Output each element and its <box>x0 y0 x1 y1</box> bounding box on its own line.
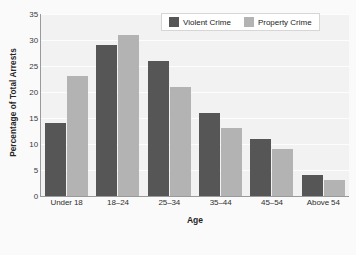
x-axis-tick-label: 25–34 <box>144 198 195 207</box>
bar <box>324 180 345 196</box>
y-axis-tick-label: 0 <box>20 192 38 201</box>
bar-group <box>92 14 143 196</box>
legend-item: Violent Crime <box>169 17 231 27</box>
x-axis-tick-label: 45–54 <box>246 198 297 207</box>
plot-area <box>40 14 349 197</box>
bar <box>250 139 271 196</box>
y-axis-tick-label: 25 <box>20 62 38 71</box>
bar-group <box>195 14 246 196</box>
y-axis-tick-label: 20 <box>20 88 38 97</box>
bar <box>272 149 293 196</box>
bar <box>221 128 242 196</box>
y-axis-tick-label: 5 <box>20 166 38 175</box>
x-axis-tick-label: 18–24 <box>92 198 143 207</box>
bar <box>199 113 220 196</box>
x-axis-tick-labels: Under 1818–2425–3435–4445–54Above 54 <box>41 198 349 207</box>
bar <box>67 76 88 196</box>
chart-legend: Violent CrimeProperty Crime <box>161 13 320 31</box>
property-crime-swatch <box>244 17 254 27</box>
bar <box>148 61 169 196</box>
bar <box>45 123 66 196</box>
y-axis-tick-labels: 35302520151050 <box>20 14 38 196</box>
bar-group <box>298 14 349 196</box>
x-axis-tick-label: Under 18 <box>41 198 92 207</box>
legend-item-label: Property Crime <box>258 18 312 27</box>
y-axis-tick-label: 35 <box>20 10 38 19</box>
x-axis-title: Age <box>41 215 349 225</box>
bar-chart-figure: Percentage of Total Arrests 353025201510… <box>0 0 356 255</box>
bar <box>118 35 139 196</box>
y-axis-tick-label: 30 <box>20 36 38 45</box>
bar <box>96 45 117 196</box>
y-axis-tick-label: 15 <box>20 114 38 123</box>
bar-group <box>246 14 297 196</box>
y-axis-tick-label: 10 <box>20 140 38 149</box>
violent-crime-swatch <box>169 17 179 27</box>
legend-item: Property Crime <box>244 17 312 27</box>
bar-group <box>41 14 92 196</box>
bar-groups <box>41 14 349 196</box>
bar-group <box>144 14 195 196</box>
legend-item-label: Violent Crime <box>183 18 231 27</box>
x-axis-tick-label: 35–44 <box>195 198 246 207</box>
bar <box>170 87 191 196</box>
x-axis-tick-label: Above 54 <box>298 198 349 207</box>
bar <box>302 175 323 196</box>
y-axis-title-text: Percentage of Total Arrests <box>9 48 18 157</box>
